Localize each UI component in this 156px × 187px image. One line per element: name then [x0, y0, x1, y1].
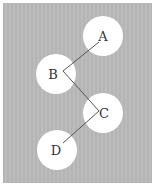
nodes-layer — [36, 16, 123, 170]
edge-b-c — [63, 71, 99, 111]
node-label-b: B — [48, 67, 58, 82]
node-label-d: D — [51, 143, 61, 158]
edge-a-b — [63, 42, 99, 71]
node-label-a: A — [97, 29, 108, 44]
node-label-c: C — [99, 106, 109, 121]
tree-diagram: ABCD — [0, 0, 156, 187]
